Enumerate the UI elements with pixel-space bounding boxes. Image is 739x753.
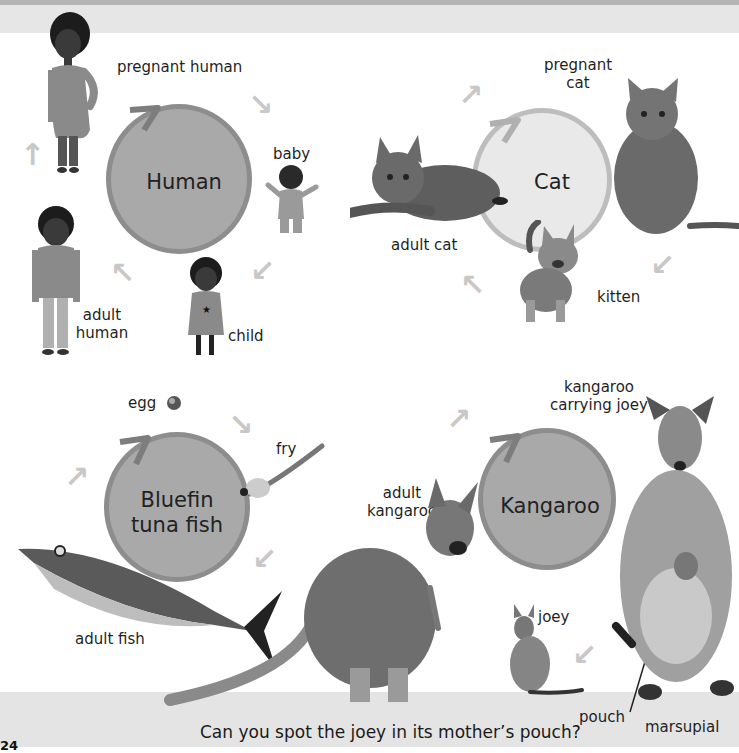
label-baby: baby bbox=[273, 145, 310, 163]
svg-text:★: ★ bbox=[202, 304, 211, 315]
cycle-arrow-up-right-icon: ↗ bbox=[446, 404, 471, 434]
joey-photo bbox=[500, 604, 584, 700]
adult-kangaroo-photo bbox=[160, 478, 480, 708]
adult-cat-photo bbox=[350, 133, 510, 228]
cycle-arrow-up-left-icon: ↖ bbox=[110, 258, 135, 288]
label-egg: egg bbox=[128, 394, 156, 412]
kitten-photo bbox=[508, 220, 588, 325]
circle-start-arrow-icon bbox=[126, 100, 166, 136]
label-carrying-line1: kangaroo bbox=[544, 378, 654, 396]
page-caption: Can you spot the joey in its mother’s po… bbox=[200, 722, 581, 742]
label-kitten: kitten bbox=[597, 288, 640, 306]
label-pregnant-cat-line1: pregnant bbox=[538, 56, 618, 74]
cycle-arrow-up-left-icon: ↖ bbox=[460, 270, 485, 300]
cycle-arrow-down-right-icon: ↘ bbox=[228, 410, 253, 440]
pregnant-cat-photo bbox=[606, 78, 739, 238]
adult-human-figure bbox=[28, 200, 88, 360]
label-adult-cat: adult cat bbox=[391, 236, 457, 254]
human-cycle-title: Human bbox=[106, 170, 262, 195]
baby-figure bbox=[264, 163, 322, 241]
circle-start-arrow-icon bbox=[488, 428, 528, 468]
cycle-arrow-up-icon: ↗ bbox=[64, 462, 89, 492]
label-pregnant-human: pregnant human bbox=[117, 58, 242, 76]
label-pouch: pouch bbox=[579, 708, 625, 726]
cycle-arrow-up-right-icon: ↗ bbox=[458, 80, 483, 110]
label-marsupial: marsupial bbox=[645, 718, 719, 736]
egg-photo bbox=[166, 395, 182, 411]
kangaroo-cycle-title: Kangaroo bbox=[480, 494, 620, 519]
child-figure: ★ bbox=[182, 253, 230, 363]
kangaroo-with-joey-photo bbox=[610, 396, 739, 708]
cycle-arrow-down-right-icon: ↘ bbox=[248, 90, 273, 120]
pregnant-human-figure bbox=[38, 10, 118, 180]
page-number: 24 bbox=[0, 738, 18, 753]
cycle-arrow-down-left-icon: ↙ bbox=[250, 256, 275, 286]
cycle-arrow-down-left-icon: ↙ bbox=[650, 250, 675, 280]
label-child: child bbox=[228, 327, 264, 345]
circle-start-arrow-icon bbox=[118, 430, 158, 470]
